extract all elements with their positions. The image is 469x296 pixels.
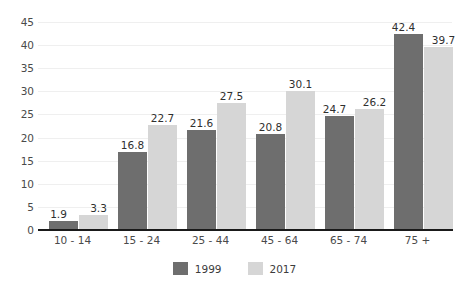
bar-group: 24.726.2 (314, 22, 383, 230)
y-axis-tick-label: 5 (4, 201, 34, 213)
legend-item[interactable]: 2017 (248, 262, 297, 275)
legend-label: 2017 (270, 263, 297, 275)
bar (118, 152, 147, 230)
x-axis-tick-label: 75 + (378, 234, 458, 246)
x-axis-tick-label: 10 - 14 (33, 234, 113, 246)
bar (148, 125, 177, 230)
bar (286, 91, 315, 230)
x-axis-tick-label: 45 - 64 (240, 234, 320, 246)
y-axis-tick-label: 0 (4, 224, 34, 236)
bar-group: 16.822.7 (107, 22, 176, 230)
y-axis-tick-label: 45 (4, 16, 34, 28)
bar-value-label: 22.7 (146, 112, 180, 124)
chart-legend: 19992017 (0, 262, 469, 275)
bar-group: 1.93.3 (38, 22, 107, 230)
y-axis-tick-label: 25 (4, 108, 34, 120)
legend-label: 1999 (195, 263, 222, 275)
x-axis-tick-label: 65 - 74 (309, 234, 389, 246)
y-axis-tick-label: 15 (4, 155, 34, 167)
x-axis: 10 - 1415 - 2425 - 4445 - 6465 - 7475 + (38, 234, 452, 250)
bar (394, 34, 423, 230)
bar-value-label: 42.4 (387, 21, 421, 33)
bar-group: 20.830.1 (245, 22, 314, 230)
bar-value-label: 21.6 (185, 117, 219, 129)
x-axis-tick-label: 25 - 44 (171, 234, 251, 246)
bar (256, 134, 285, 230)
legend-swatch-icon (173, 262, 188, 275)
bar-group: 42.439.7 (383, 22, 452, 230)
legend-swatch-icon (248, 262, 263, 275)
x-axis-tick-label: 15 - 24 (102, 234, 182, 246)
bar-value-label: 20.8 (254, 121, 288, 133)
bar (355, 109, 384, 230)
plot-area: 1.93.316.822.721.627.520.830.124.726.242… (38, 22, 452, 230)
bar-value-label: 27.5 (215, 90, 249, 102)
bar-chart: 051015202530354045 1.93.316.822.721.627.… (0, 0, 469, 296)
y-axis-tick-label: 30 (4, 85, 34, 97)
y-axis: 051015202530354045 (0, 22, 34, 230)
bar-value-label: 39.7 (427, 34, 461, 46)
bar (79, 215, 108, 230)
bar-value-label: 30.1 (284, 78, 318, 90)
bar (325, 116, 354, 230)
bar-group: 21.627.5 (176, 22, 245, 230)
bar (187, 130, 216, 230)
y-axis-tick-label: 35 (4, 62, 34, 74)
y-axis-tick-label: 20 (4, 132, 34, 144)
bar (217, 103, 246, 230)
legend-item[interactable]: 1999 (173, 262, 222, 275)
y-axis-tick-label: 10 (4, 178, 34, 190)
y-axis-tick-label: 40 (4, 39, 34, 51)
x-axis-baseline (38, 229, 453, 231)
bar-value-label: 24.7 (318, 103, 352, 115)
bar-value-label: 16.8 (116, 139, 150, 151)
bar-value-label: 1.9 (42, 208, 76, 220)
bar (424, 47, 453, 231)
